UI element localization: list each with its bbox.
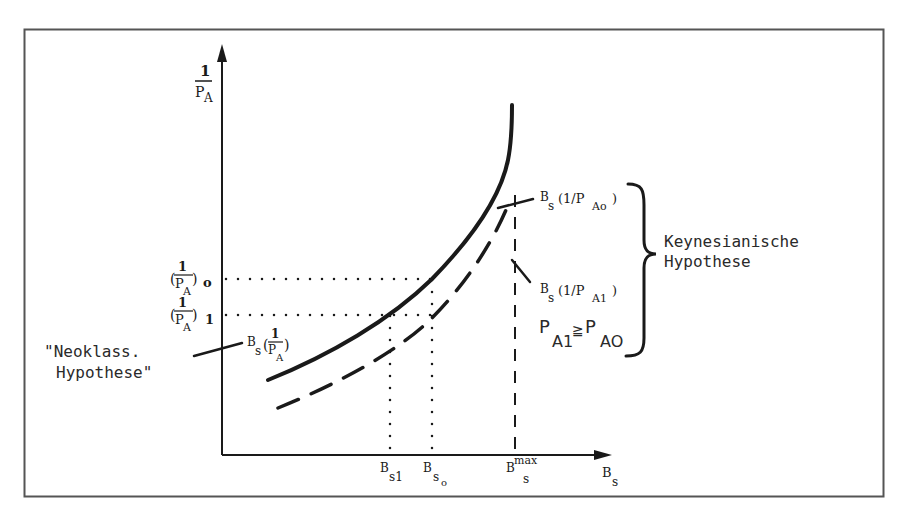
svg-text:A: A	[182, 321, 192, 334]
svg-text:1: 1	[178, 259, 187, 274]
y-tick-1-over-pa-o: ( 1 P A ) o	[170, 259, 212, 298]
diagram-frame	[25, 30, 884, 497]
svg-text:A1: A1	[591, 292, 607, 305]
svg-text:B: B	[602, 465, 612, 480]
svg-text:P: P	[585, 316, 596, 337]
curve-label-bs-1-over-pa: B s ( 1 P A )	[247, 327, 289, 363]
svg-text:s: s	[548, 291, 554, 305]
svg-text:Hypothese: Hypothese	[664, 252, 751, 271]
svg-text:s: s	[433, 470, 439, 484]
svg-text:B: B	[380, 461, 389, 475]
svg-text:1: 1	[205, 312, 214, 327]
svg-text:A1: A1	[552, 332, 573, 351]
x-axis-label: B s	[602, 465, 618, 489]
svg-text:A: A	[275, 352, 284, 363]
x-tick-bs-max: B max s	[506, 454, 538, 486]
svg-text:s1: s1	[389, 470, 403, 484]
svg-text:P: P	[539, 316, 550, 337]
y-tick-1-over-pa-1: ( 1 P A ) 1	[170, 295, 214, 334]
leader-neoklass	[194, 343, 242, 356]
svg-text:): )	[192, 271, 197, 287]
keynes-brace	[626, 184, 656, 356]
keynes-hypothesis-label: Keynesianische Hypothese	[664, 232, 799, 271]
svg-text:s: s	[548, 199, 554, 213]
svg-text:(1/P: (1/P	[558, 283, 585, 298]
svg-text:s: s	[523, 472, 529, 486]
svg-text:): )	[192, 307, 197, 323]
svg-text:s: s	[612, 475, 618, 489]
svg-text:1: 1	[271, 327, 279, 341]
curve-label-bs-pa1: B s (1/P A1 )	[540, 282, 617, 305]
neoklass-hypothesis-label: "Neoklass. Hypothese"	[44, 342, 152, 382]
svg-text:Keynesianische: Keynesianische	[664, 232, 799, 251]
x-tick-bs1: B s1	[380, 461, 403, 484]
svg-text:B: B	[423, 461, 432, 475]
svg-text:"Neoklass.: "Neoklass.	[44, 342, 140, 361]
svg-text:Ao: Ao	[591, 200, 607, 213]
supply-curve-diagram: 1 P A B s ( 1 P A ) o ( 1 P A ) 1	[0, 0, 905, 522]
svg-text:A: A	[203, 91, 213, 105]
svg-text:≧: ≧	[572, 322, 584, 338]
curve-label-bs-pao: B s (1/P Ao )	[540, 190, 617, 213]
svg-text:): )	[612, 191, 617, 206]
svg-text:P: P	[195, 84, 204, 100]
svg-text:o: o	[203, 275, 212, 290]
svg-text:AO: AO	[600, 332, 623, 351]
svg-text:1: 1	[200, 62, 210, 80]
svg-text:o: o	[441, 477, 447, 488]
svg-text:Hypothese": Hypothese"	[56, 363, 152, 382]
svg-text:(1/P: (1/P	[558, 191, 585, 206]
svg-text:): )	[612, 283, 617, 298]
svg-text:1: 1	[178, 295, 187, 310]
svg-text:P: P	[268, 343, 276, 357]
x-axis-arrow-icon	[594, 450, 612, 460]
svg-text:): )	[284, 337, 289, 353]
axes	[217, 44, 612, 460]
price-inequality: P A1 ≧ P AO	[539, 316, 623, 351]
y-axis-label: 1 P A	[195, 62, 213, 105]
svg-text:max: max	[514, 454, 538, 467]
x-tick-bso: B s o	[423, 461, 447, 488]
svg-text:s: s	[255, 344, 261, 358]
y-axis-arrow-icon	[217, 44, 227, 62]
